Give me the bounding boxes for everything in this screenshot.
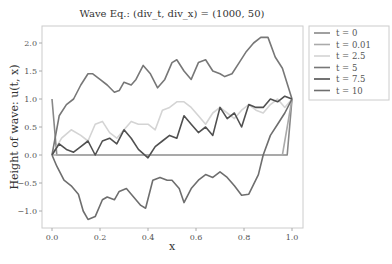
series-line bbox=[52, 99, 292, 219]
chart: Wave Eq.: (div_t, div_x) = (1000, 50) 2.… bbox=[0, 0, 392, 264]
y-tick-label: 1.0 bbox=[24, 95, 37, 104]
legend-label: t = 10 bbox=[336, 86, 363, 96]
y-tick-label: 0.0 bbox=[24, 151, 37, 160]
x-tick-label: 0.2 bbox=[94, 233, 107, 242]
chart-title: Wave Eq.: (div_t, div_x) = (1000, 50) bbox=[80, 8, 265, 20]
x-tick-label: 0.0 bbox=[46, 233, 59, 242]
legend-label: t = 0 bbox=[336, 28, 357, 38]
legend: t = 0t = 0.01t = 2.5t = 5t = 7.5t = 10 bbox=[309, 26, 389, 100]
series-lines bbox=[52, 37, 292, 219]
plot-area bbox=[42, 26, 303, 228]
x-axis-title: x bbox=[169, 240, 176, 253]
legend-label: t = 5 bbox=[336, 63, 357, 73]
y-axis: 2.01.51.00.50.0−0.5−1.0 bbox=[18, 39, 42, 216]
y-tick-label: 2.0 bbox=[24, 39, 37, 48]
line-chart: Wave Eq.: (div_t, div_x) = (1000, 50) 2.… bbox=[0, 0, 392, 264]
series-line bbox=[52, 37, 292, 155]
x-tick-label: 0.4 bbox=[142, 233, 155, 242]
y-tick-label: −1.0 bbox=[18, 207, 37, 216]
legend-label: t = 0.01 bbox=[336, 40, 371, 50]
legend-label: t = 2.5 bbox=[336, 51, 365, 61]
y-axis-title: Height of wave: u(t, x) bbox=[8, 64, 21, 189]
y-tick-label: 1.5 bbox=[24, 67, 37, 76]
x-tick-label: 0.6 bbox=[190, 233, 203, 242]
legend-label: t = 7.5 bbox=[336, 74, 365, 84]
y-tick-label: 0.5 bbox=[24, 123, 37, 132]
x-tick-label: 0.8 bbox=[238, 233, 251, 242]
x-tick-label: 1.0 bbox=[286, 233, 299, 242]
